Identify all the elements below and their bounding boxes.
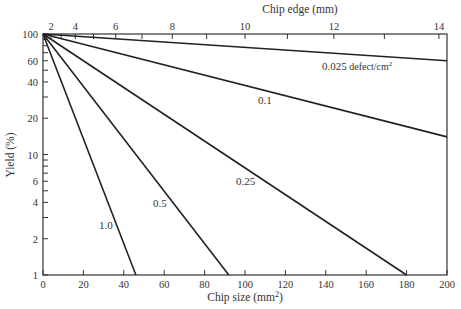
series-label-05: 0.5 [153,197,167,209]
series-label-0025: 0.025 defect/cm2 [322,60,393,72]
y-tick-label: 6 [33,176,38,187]
y-tick-label: 100 [22,29,38,40]
y-tick-label: 1 [33,270,38,281]
series-line [43,34,447,137]
x-tick-label: 180 [399,279,415,290]
y-tick-label: 40 [28,77,39,88]
top-tick-label: 4 [73,21,79,32]
x-tick-label: 60 [159,279,170,290]
top-tick-label: 2 [48,21,53,32]
yield-chart: 0204060801001201401601802001246102040601… [0,0,461,309]
x-tick-label: 200 [439,279,455,290]
series-line [43,34,229,275]
y-tick-label: 20 [28,113,39,124]
y-axis-label: Yield (%) [4,132,17,177]
x-axis-label: Chip size (mm2) [207,290,283,304]
series-label-10: 1.0 [99,219,113,231]
series-label-025: 0.25 [236,175,256,187]
x-tick-label: 80 [199,279,210,290]
x-tick-label: 100 [237,279,253,290]
x-tick-label: 160 [358,279,374,290]
top-axis-label: Chip edge (mm) [262,3,338,16]
x-tick-label: 140 [318,279,334,290]
x-tick-label: 20 [78,279,89,290]
series-label-01: 0.1 [258,94,272,106]
top-tick-label: 14 [434,21,445,32]
top-tick-label: 10 [240,21,251,32]
y-tick-label: 4 [33,197,39,208]
top-tick-label: 8 [170,21,175,32]
x-tick-label: 40 [119,279,130,290]
y-tick-label: 60 [28,56,39,67]
top-tick-label: 6 [113,21,118,32]
top-tick-label: 12 [329,21,340,32]
y-tick-label: 2 [33,234,38,245]
x-tick-label: 0 [40,279,45,290]
y-tick-label: 10 [28,150,39,161]
series-line [43,34,136,275]
x-tick-label: 120 [278,279,294,290]
